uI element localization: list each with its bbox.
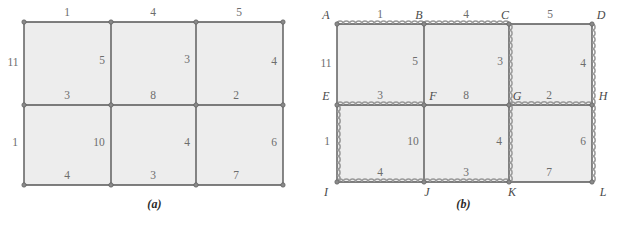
vertex-node <box>194 103 198 107</box>
vertex-node <box>590 22 594 26</box>
edge-weight-GH: 2 <box>546 90 552 102</box>
vertex-node <box>507 103 511 107</box>
highlight-edge-BC <box>424 21 509 24</box>
vertex-node <box>281 103 285 107</box>
vertex-label-G: G <box>513 90 522 102</box>
vertex-node <box>194 183 198 187</box>
edge-weight-DH: 4 <box>580 58 586 70</box>
edge-weight-CD: 5 <box>547 9 553 21</box>
panel-a: 1451153438211046437 (a) <box>0 0 309 228</box>
vertex-label-F: F <box>429 90 436 102</box>
vertex-node <box>22 103 26 107</box>
panel-b-caption: (b) <box>309 197 618 212</box>
edge-weight-top-middle: 4 <box>150 7 156 19</box>
edge-weight-top-left: 1 <box>64 7 70 19</box>
edge-weight-KL: 7 <box>546 167 552 179</box>
edge-weight-bottom-middle: 3 <box>150 170 156 182</box>
edge-weight-EF: 3 <box>377 90 383 102</box>
vertex-node <box>194 20 198 24</box>
edge-weight-top-right: 5 <box>236 7 242 19</box>
vertex-node <box>422 103 426 107</box>
vertex-node <box>22 183 26 187</box>
edge-weight-middle-left: 3 <box>64 90 70 102</box>
vertex-node <box>507 180 511 184</box>
edge-weight-CG: 3 <box>497 56 503 68</box>
edge-weight-BF: 5 <box>412 56 418 68</box>
edge-weight-AB: 1 <box>377 9 383 21</box>
vertex-node <box>335 22 339 26</box>
edge-weight-GK: 4 <box>496 136 502 148</box>
edge-weight-JK: 3 <box>463 167 469 179</box>
vertex-label-A: A <box>322 9 329 21</box>
vertex-node <box>590 103 594 107</box>
grid-cell <box>196 105 283 185</box>
edge-weight-right-outer-upper: 4 <box>271 56 277 68</box>
edge-weight-HL: 6 <box>580 136 586 148</box>
edge-weight-right-outer-lower: 6 <box>271 137 277 149</box>
edge-weight-inner-vert-1-upper: 5 <box>99 55 105 67</box>
edge-weight-left-outer-lower: 1 <box>12 137 18 149</box>
edge-weight-IJ: 4 <box>377 167 383 179</box>
vertex-label-C: C <box>501 9 509 21</box>
vertex-node <box>109 103 113 107</box>
vertex-label-D: D <box>597 9 606 21</box>
edge-weight-inner-vert-1-lower: 10 <box>93 137 105 149</box>
edge-weight-EI: 1 <box>324 136 330 148</box>
grid-cell <box>196 22 283 105</box>
vertex-node <box>335 180 339 184</box>
panel-a-caption-text: (a) <box>147 197 162 211</box>
vertex-node <box>281 20 285 24</box>
edge-weight-bottom-right: 7 <box>233 170 239 182</box>
edge-weight-BC: 4 <box>463 9 469 21</box>
vertex-node <box>590 180 594 184</box>
panel-b-caption-text: (b) <box>456 197 471 211</box>
vertex-node <box>281 183 285 187</box>
edge-weight-inner-vert-2-upper: 3 <box>184 54 190 66</box>
vertex-label-B: B <box>415 9 422 21</box>
highlight-edge-AB <box>337 21 424 24</box>
edge-weight-bottom-left: 4 <box>64 170 70 182</box>
panel-b: 1451153438211046437ABCDEFGHIJKL (b) <box>309 0 618 228</box>
edge-weight-middle-middle: 8 <box>150 90 156 102</box>
edge-weight-FJ: 10 <box>407 136 419 148</box>
vertex-node <box>22 20 26 24</box>
edge-weight-AE: 11 <box>320 58 331 70</box>
panel-a-graph <box>0 0 309 228</box>
vertex-label-H: H <box>599 90 608 102</box>
vertex-node <box>422 180 426 184</box>
vertex-node <box>109 20 113 24</box>
vertex-node <box>109 183 113 187</box>
panel-b-graph <box>309 0 618 228</box>
edge-weight-middle-right: 2 <box>233 90 239 102</box>
vertex-label-E: E <box>322 90 329 102</box>
panel-a-caption: (a) <box>0 197 309 212</box>
grid-graph-figure: 1451153438211046437 (a) 1451153438211046… <box>0 0 618 228</box>
edge-weight-FG: 8 <box>463 90 469 102</box>
vertex-node <box>335 103 339 107</box>
vertex-node <box>507 22 511 26</box>
vertex-node <box>422 22 426 26</box>
edge-weight-inner-vert-2-lower: 4 <box>184 137 190 149</box>
edge-weight-left-outer-upper: 11 <box>7 57 18 69</box>
